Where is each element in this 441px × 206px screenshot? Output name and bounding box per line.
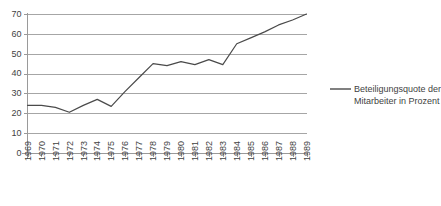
y-tick-label-60: 60 xyxy=(11,29,21,39)
legend-group: Beteiligungsquote derMitarbeiter in Proz… xyxy=(330,84,441,106)
y-tick-label-20: 20 xyxy=(11,108,21,118)
gridlines-group xyxy=(28,15,307,154)
x-tick-label-1989: 1989 xyxy=(302,141,312,161)
x-tick-label-1979: 1979 xyxy=(162,141,172,161)
x-tick-label-1983: 1983 xyxy=(218,141,228,161)
x-tick-label-1969: 1969 xyxy=(23,141,33,161)
y-tick-labels-group: 010203040506070 xyxy=(11,9,21,158)
x-tick-label-1988: 1988 xyxy=(288,141,298,161)
x-tick-label-1975: 1975 xyxy=(106,141,116,161)
x-tick-label-1976: 1976 xyxy=(120,141,130,161)
data-series-group xyxy=(28,14,307,112)
y-tick-label-70: 70 xyxy=(11,9,21,19)
x-tick-label-1985: 1985 xyxy=(246,141,256,161)
y-tick-label-0: 0 xyxy=(16,148,21,158)
x-tick-label-1974: 1974 xyxy=(92,141,102,161)
y-tick-label-30: 30 xyxy=(11,88,21,98)
x-tick-label-1978: 1978 xyxy=(148,141,158,161)
x-tick-label-1971: 1971 xyxy=(51,141,61,161)
y-tick-label-40: 40 xyxy=(11,68,21,78)
x-tick-label-1973: 1973 xyxy=(79,141,89,161)
x-tick-label-1986: 1986 xyxy=(260,141,270,161)
x-tick-label-1980: 1980 xyxy=(176,141,186,161)
line-chart-svg: 010203040506070 196919701971197219731974… xyxy=(0,0,441,206)
x-tick-label-1977: 1977 xyxy=(134,141,144,161)
x-tick-label-1972: 1972 xyxy=(65,141,75,161)
legend-label-line1-0: Beteiligungsquote der xyxy=(354,84,441,94)
x-tick-label-1982: 1982 xyxy=(204,141,214,161)
x-tick-label-1984: 1984 xyxy=(232,141,242,161)
x-tick-label-1987: 1987 xyxy=(274,141,284,161)
x-tick-label-1970: 1970 xyxy=(37,141,47,161)
series-line-0 xyxy=(28,14,307,112)
y-tick-label-50: 50 xyxy=(11,49,21,59)
x-tick-label-1981: 1981 xyxy=(190,141,200,161)
legend-label-line2-0: Mitarbeiter in Prozent xyxy=(354,96,440,106)
chart-figure: 010203040506070 196919701971197219731974… xyxy=(0,0,441,206)
y-tick-label-10: 10 xyxy=(11,128,21,138)
y-axis-group xyxy=(24,13,28,159)
x-tick-labels-group: 1969197019711972197319741975197619771978… xyxy=(23,141,312,161)
